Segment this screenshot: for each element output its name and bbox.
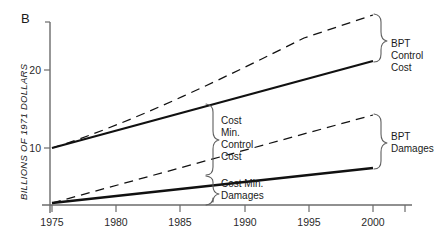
label-bpt-control-cost-line1: BPT: [391, 38, 410, 49]
label-cost-min-damages-line2: Damages: [221, 190, 264, 201]
y-axis-title: BILLIONS OF 1971 DOLLARS: [18, 63, 29, 200]
x-tick-label-1980: 1980: [104, 216, 128, 228]
label-cost-min-control-cost-line3: Control: [221, 139, 253, 150]
y-tick-label-10: 10: [29, 142, 41, 154]
brace-cost-min-control-cost: [206, 104, 219, 175]
brace-bpt-control-cost: [374, 14, 387, 62]
label-cost-min-damages-line1: Cost Min.: [221, 178, 263, 189]
y-tick-label-20: 20: [29, 64, 41, 76]
x-tick-label-1990: 1990: [233, 216, 257, 228]
line-chart: B BILLIONS OF 1971 DOLLARS 10 20 1975 19…: [0, 0, 439, 241]
x-tick-group: 1975 1980 1985 1990 1995 2000: [40, 205, 405, 228]
y-tick-group: 10 20: [29, 64, 50, 154]
brace-bpt-damages: [374, 114, 387, 169]
label-cost-min-control-cost-line2: Min.: [221, 127, 240, 138]
x-tick-label-1995: 1995: [297, 216, 321, 228]
x-tick-label-2000: 2000: [361, 216, 385, 228]
figure-panel-b: B BILLIONS OF 1971 DOLLARS 10 20 1975 19…: [0, 0, 439, 241]
series-bpt-control-cost-solid: [52, 61, 373, 148]
brace-cost-min-damages: [206, 176, 219, 205]
label-cost-min-control-cost-line1: Cost: [221, 115, 242, 126]
x-tick-label-1975: 1975: [40, 216, 64, 228]
label-bpt-control-cost-line3: Cost: [391, 62, 412, 73]
label-bpt-control-cost-line2: Control: [391, 50, 423, 61]
label-cost-min-control-cost-line4: Cost: [221, 151, 242, 162]
x-tick-label-1985: 1985: [168, 216, 192, 228]
label-bpt-damages-line1: BPT: [391, 131, 410, 142]
label-bpt-damages-line2: Damages: [391, 143, 434, 154]
panel-label: B: [21, 11, 30, 26]
